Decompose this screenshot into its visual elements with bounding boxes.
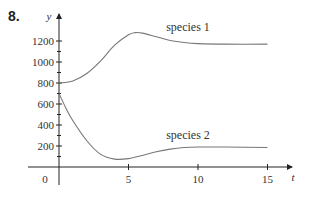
x-tick-label: 5 [126, 173, 132, 185]
x-tick-label: 15 [262, 173, 274, 185]
y-tick-label: 600 [38, 98, 55, 110]
series-label-species-2: species 2 [166, 128, 210, 142]
x-tick-label: 10 [193, 173, 205, 185]
series-group [59, 32, 268, 159]
series-line-1 [59, 32, 268, 83]
line-chart: 51015200400600800100012000ytspecies 1spe… [0, 0, 314, 201]
y-axis-label: y [46, 10, 52, 22]
y-tick-label: 200 [38, 140, 55, 152]
labels-group: 51015200400600800100012000ytspecies 1spe… [32, 10, 295, 185]
y-tick-label: 1000 [32, 56, 55, 68]
axes [28, 14, 292, 185]
x-axis-label: t [291, 171, 295, 183]
y-tick-label: 800 [38, 77, 55, 89]
y-tick-label: 1200 [32, 35, 55, 47]
series-label-species-1: species 1 [166, 20, 210, 34]
y-tick-label: 400 [38, 119, 55, 131]
origin-label: 0 [42, 173, 48, 185]
series-line-2 [59, 94, 268, 160]
